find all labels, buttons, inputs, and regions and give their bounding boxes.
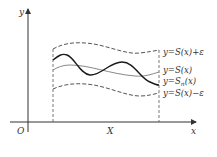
lower-bound-label: y=S(x)−ε (162, 88, 204, 98)
y-axis-label: y (18, 7, 25, 17)
upper-bound-curve (53, 43, 159, 53)
interval-label: X (106, 126, 114, 136)
x-axis-label: x (191, 126, 196, 136)
partial-sum-curve (53, 54, 159, 85)
partial-sum-label: y=Sn(x) (162, 76, 196, 87)
limit-function-curve (53, 65, 159, 76)
limit-function-label: y=S(x) (162, 65, 192, 75)
uniform-convergence-diagram: y x O X y=S(x)+ε y=S(x) y=Sn(x) y=S(x)−ε (0, 0, 217, 157)
origin-label: O (17, 126, 25, 136)
lower-bound-curve (53, 84, 159, 96)
upper-bound-label: y=S(x)+ε (162, 47, 204, 57)
